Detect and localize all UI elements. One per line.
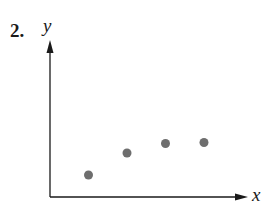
x-axis-arrow-icon <box>235 194 248 201</box>
data-points <box>84 138 209 180</box>
data-point <box>161 139 170 148</box>
axes <box>47 40 249 201</box>
data-point <box>123 148 132 157</box>
scatter-plot <box>0 0 269 220</box>
data-point <box>84 171 93 180</box>
data-point <box>200 138 209 147</box>
y-axis-arrow-icon <box>47 40 54 53</box>
